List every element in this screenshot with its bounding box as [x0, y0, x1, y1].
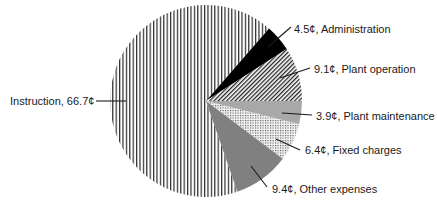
- label-administration: 4.5¢, Administration: [294, 23, 391, 35]
- pie-chart: 4.5¢, Administration 9.1¢, Plant operati…: [0, 0, 437, 201]
- label-other-expenses: 9.4¢, Other expenses: [272, 183, 378, 195]
- label-plant-operation: 9.1¢, Plant operation: [314, 63, 416, 75]
- label-fixed-charges: 6.4¢, Fixed charges: [305, 144, 402, 156]
- label-instruction: Instruction, 66.7¢: [10, 95, 94, 107]
- label-plant-maintenance: 3.9¢, Plant maintenance: [316, 110, 435, 122]
